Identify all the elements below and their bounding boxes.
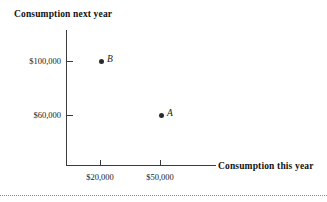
bottom-divider [0, 195, 327, 197]
data-point-b-marker [99, 59, 104, 64]
x-axis-title: Consumption this year [218, 161, 314, 172]
data-point-b-label: B [107, 54, 113, 65]
data-point-a-label: A [167, 108, 173, 119]
y-tick-mark-60000 [67, 115, 73, 116]
y-tick-label-60000: $60,000 [5, 110, 61, 120]
x-tick-label-50000: $50,000 [130, 172, 190, 182]
consumption-scatter-chart: Consumption next year Consumption this y… [0, 0, 327, 202]
y-axis-title: Consumption next year [14, 9, 112, 20]
y-tick-label-100000: $100,000 [5, 56, 61, 66]
x-axis-line [66, 165, 216, 166]
x-tick-mark-20000 [100, 160, 101, 166]
x-tick-label-20000: $20,000 [70, 172, 130, 182]
y-tick-mark-100000 [67, 61, 73, 62]
y-axis-line [66, 30, 67, 166]
data-point-a-marker [159, 113, 164, 118]
x-tick-mark-50000 [160, 160, 161, 166]
